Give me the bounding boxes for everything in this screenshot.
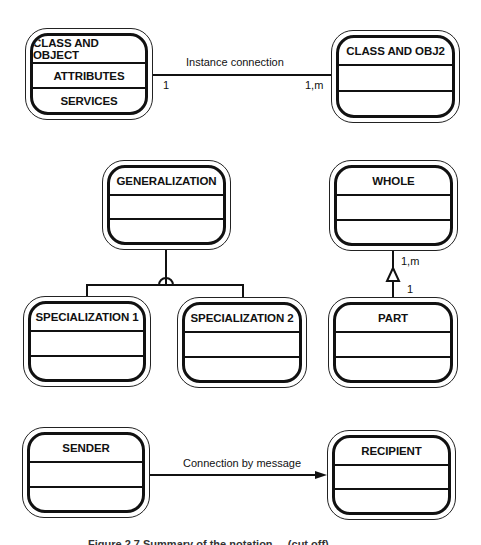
class-name: WHOLE: [337, 168, 450, 194]
class-attributes: [30, 461, 142, 486]
arrowhead-icon: [315, 471, 327, 479]
instance-from-multiplicity: 1: [163, 79, 169, 91]
class-services: [336, 356, 450, 381]
class-sender: SENDER: [22, 427, 150, 518]
class-attributes: [336, 331, 450, 356]
class-services: SERVICES: [33, 87, 145, 112]
class-class-and-obj2: CLASS AND OBJ2: [331, 30, 460, 123]
whole-part-triangle-icon: [387, 268, 399, 281]
class-name: CLASS AND OBJECT: [33, 36, 145, 62]
class-name: CLASS AND OBJ2: [339, 38, 452, 64]
whole-multiplicity: 1,m: [401, 255, 419, 267]
class-attributes: [339, 64, 452, 90]
class-whole: WHOLE: [329, 160, 458, 251]
class-attributes: [31, 330, 143, 355]
class-attributes: [335, 464, 448, 488]
class-services: [30, 486, 142, 511]
class-class-and-object: CLASS AND OBJECT ATTRIBUTES SERVICES: [25, 28, 153, 120]
class-specialization-2: SPECIALIZATION 2: [177, 297, 307, 388]
class-recipient: RECIPIENT: [327, 430, 456, 520]
class-name: RECIPIENT: [335, 438, 448, 464]
class-attributes: ATTRIBUTES: [33, 62, 145, 87]
figure-caption-cut-off: Figure 2.7 Summary of the notation ... (…: [88, 538, 329, 545]
class-attributes: [185, 331, 299, 356]
class-part: PART: [328, 297, 458, 388]
instance-connection-label: Instance connection: [186, 56, 284, 68]
class-name: SPECIALIZATION 1: [31, 304, 143, 330]
class-name: SPECIALIZATION 2: [185, 305, 299, 331]
class-services: [335, 488, 448, 512]
class-name: SENDER: [30, 435, 142, 461]
class-services: [339, 90, 452, 116]
class-services: [185, 356, 299, 381]
part-multiplicity: 1: [407, 283, 413, 295]
class-attributes: [337, 194, 450, 219]
class-attributes: [110, 194, 223, 218]
instance-to-multiplicity: 1,m: [305, 79, 323, 91]
class-specialization-1: SPECIALIZATION 1: [23, 296, 151, 387]
message-connection-label: Connection by message: [183, 457, 301, 469]
class-name: PART: [336, 305, 450, 331]
class-services: [110, 218, 223, 242]
class-name: GENERALIZATION: [110, 168, 223, 194]
class-services: [31, 355, 143, 380]
class-generalization: GENERALIZATION: [102, 160, 231, 250]
class-services: [337, 219, 450, 244]
